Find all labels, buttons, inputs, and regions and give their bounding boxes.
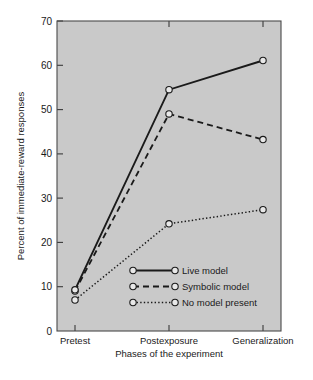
- legend-marker: [172, 267, 178, 273]
- legend-marker: [130, 299, 136, 305]
- y-tick-label: 70: [41, 16, 53, 27]
- y-tick-label: 10: [41, 281, 53, 292]
- line-chart: 70 60 50 40 30 20 10 0: [0, 0, 313, 380]
- data-point: [260, 136, 266, 142]
- legend-marker: [130, 267, 136, 273]
- legend-label: No model present: [182, 297, 257, 308]
- y-tick-label: 0: [46, 326, 52, 337]
- legend-marker: [130, 283, 136, 289]
- data-point: [166, 87, 172, 93]
- x-category-label: Postexposure: [140, 335, 198, 346]
- x-category-label: Pretest: [60, 335, 90, 346]
- legend-marker: [172, 283, 178, 289]
- y-tick-label: 60: [41, 60, 53, 71]
- data-point: [166, 221, 172, 227]
- y-tick-0: 0: [46, 326, 52, 337]
- legend-marker: [172, 299, 178, 305]
- legend-label: Symbolic model: [182, 281, 249, 292]
- data-point: [260, 207, 266, 213]
- data-point: [72, 287, 78, 293]
- x-category-label: Generalization: [232, 335, 293, 346]
- data-point: [72, 297, 78, 303]
- x-axis-title: Phases of the experiment: [115, 348, 223, 359]
- data-point: [166, 111, 172, 117]
- y-tick-label: 30: [41, 193, 53, 204]
- y-tick-label: 20: [41, 237, 53, 248]
- y-tick-label: 40: [41, 148, 53, 159]
- data-point: [260, 57, 266, 63]
- y-tick-label: 50: [41, 104, 53, 115]
- y-axis-title: Percent of immediate-reward responses: [15, 92, 26, 261]
- legend-label: Live model: [182, 265, 228, 276]
